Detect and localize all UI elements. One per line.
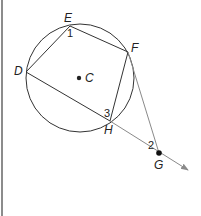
label-d: D xyxy=(14,64,23,78)
geometry-diagram: E F D C H G 1 2 3 xyxy=(0,0,201,216)
label-e: E xyxy=(64,11,73,25)
label-h: H xyxy=(104,123,113,137)
label-f: F xyxy=(131,41,139,55)
center-point-c xyxy=(77,76,81,80)
angle-1-label: 1 xyxy=(67,27,73,39)
label-g: G xyxy=(154,158,163,172)
segment-fg xyxy=(128,52,159,153)
label-c: C xyxy=(85,71,94,85)
point-g xyxy=(156,150,162,156)
angle-2-label: 2 xyxy=(148,139,154,151)
angle-3-label: 3 xyxy=(104,107,110,119)
